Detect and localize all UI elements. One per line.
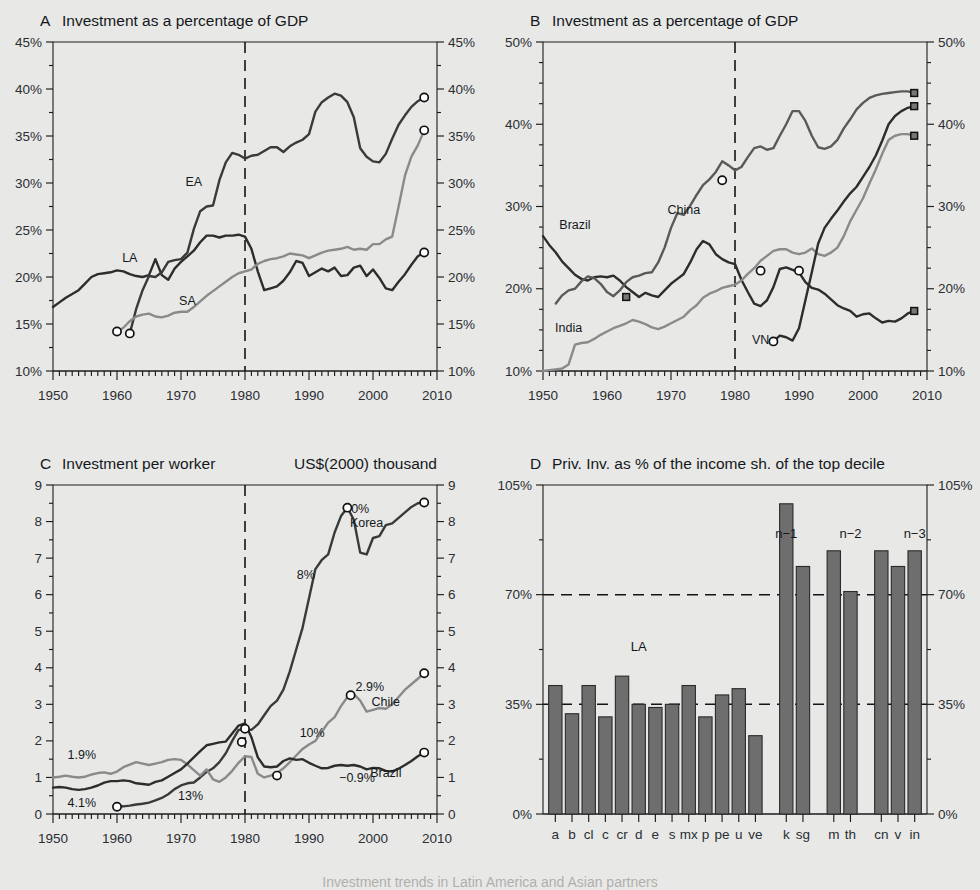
panel-letter-b: B — [530, 12, 540, 29]
y-tick-label-right: 5 — [448, 624, 456, 639]
y-tick-label-right: 10% — [938, 364, 965, 379]
bar-d — [632, 704, 645, 814]
y-tick-label-right: 30% — [938, 199, 965, 214]
bar-cl — [582, 686, 595, 814]
marker-point-ea — [126, 329, 134, 337]
y-tick-label-right: 15% — [448, 317, 475, 332]
panel-letter-c: C — [40, 455, 51, 472]
y-tick-label-left: 15% — [15, 317, 42, 332]
x-tick-label: 1950 — [528, 388, 558, 403]
y-tick-label-right: 1 — [448, 770, 456, 785]
annotation-13: 13% — [178, 789, 203, 803]
x-tick-label: 2010 — [912, 388, 942, 403]
chart-b: BInvestment as a percentage of GDP10%10%… — [490, 0, 980, 443]
x-tick-label: 1980 — [230, 831, 260, 846]
marker-point-chile — [347, 691, 355, 699]
x-tick-label: 1950 — [38, 831, 68, 846]
marker-square-brazil — [911, 308, 918, 315]
x-tick-label-u: u — [735, 827, 743, 842]
marker-point-korea — [241, 725, 249, 733]
x-tick-label: 1990 — [294, 831, 324, 846]
x-tick-label-s: s — [669, 827, 676, 842]
bar-e — [649, 707, 662, 814]
panel-title-c: Investment per worker — [62, 455, 215, 472]
chart-c: CInvestment per workerUS$(2000) thousand… — [0, 443, 490, 886]
x-tick-label-pe: pe — [715, 827, 730, 842]
series-line-sa — [117, 130, 424, 331]
y-tick-label-right: 10% — [448, 364, 475, 379]
y-tick-label-left: 45% — [15, 35, 42, 50]
marker-point-la — [420, 248, 428, 256]
chart-a: AInvestment as a percentage of GDP10%10%… — [0, 0, 490, 443]
marker-point-korea — [113, 803, 121, 811]
panel-c: CInvestment per workerUS$(2000) thousand… — [0, 443, 490, 886]
group-label-n1: n−1 — [775, 526, 797, 541]
series-line-vn — [773, 106, 914, 341]
y-tick-label-left: 20% — [505, 281, 532, 296]
chart-d: DPriv. Inv. as % of the income sh. of th… — [490, 443, 980, 886]
bar-mx — [682, 686, 695, 814]
y-tick-label-left: 4 — [34, 660, 42, 675]
x-tick-label: 1990 — [784, 388, 814, 403]
y-tick-label-left: 7 — [34, 551, 42, 566]
marker-point-korea — [420, 498, 428, 506]
x-tick-label: 2000 — [358, 831, 388, 846]
y-tick-label-right: 105% — [938, 478, 973, 493]
bar-v — [891, 566, 904, 814]
x-tick-label: 1990 — [294, 388, 324, 403]
y-tick-label-left: 5 — [34, 624, 42, 639]
x-tick-label-k: k — [783, 827, 790, 842]
series-line-india — [543, 134, 914, 371]
x-tick-label: 1960 — [102, 388, 132, 403]
panel-title-d: Priv. Inv. as % of the income sh. of the… — [552, 455, 885, 472]
bar-c — [599, 717, 612, 814]
marker-square-india — [911, 132, 918, 139]
annotation-2.9: 2.9% — [356, 680, 385, 694]
y-tick-label-right: 2 — [448, 733, 456, 748]
bar-th — [844, 592, 857, 814]
series-label-la: LA — [122, 251, 138, 265]
panel-d: DPriv. Inv. as % of the income sh. of th… — [490, 443, 980, 886]
bar-cn — [875, 551, 888, 814]
series-label-china: China — [667, 203, 700, 217]
x-tick-label-a: a — [552, 827, 560, 842]
x-tick-label-cl: cl — [584, 827, 594, 842]
y-tick-label-right: 20% — [938, 281, 965, 296]
y-tick-label-right: 25% — [448, 223, 475, 238]
bar-ve — [749, 736, 762, 814]
y-tick-label-left: 3 — [34, 697, 42, 712]
marker-square-brazil — [623, 294, 630, 301]
y-tick-label-right: 0% — [938, 807, 958, 822]
y-tick-label-left: 2 — [34, 733, 42, 748]
series-label-india: India — [555, 321, 582, 335]
annotation-8: 8% — [297, 568, 315, 582]
marker-square-vn — [911, 103, 918, 110]
x-tick-label: 1980 — [230, 388, 260, 403]
y-tick-label-left: 8 — [34, 514, 42, 529]
annotation-1.9: 1.9% — [68, 748, 97, 762]
marker-point-ea — [420, 93, 428, 101]
bar-s — [665, 704, 678, 814]
series-label-brazil: Brazil — [559, 218, 590, 232]
marker-square-china — [911, 90, 918, 97]
y-tick-label-left: 0 — [34, 807, 42, 822]
annotation-0: 0% — [351, 502, 369, 516]
bar-b — [565, 714, 578, 814]
y-tick-label-right: 6 — [448, 587, 456, 602]
series-label-sa: SA — [179, 294, 196, 308]
panel-title-right: US$(2000) thousand — [294, 455, 437, 472]
group-label-LA: LA — [631, 639, 647, 654]
x-tick-label: 1970 — [656, 388, 686, 403]
group-label-n3: n−3 — [904, 526, 926, 541]
y-tick-label-left: 40% — [15, 82, 42, 97]
y-tick-label-left: 40% — [505, 117, 532, 132]
x-tick-label-p: p — [702, 827, 710, 842]
x-tick-label-c: c — [602, 827, 609, 842]
series-label-brazil: Brazil — [370, 766, 401, 780]
series-label-vn: VN — [752, 333, 769, 347]
y-tick-label-right: 3 — [448, 697, 456, 712]
marker-point-brazil — [238, 738, 246, 746]
y-tick-label-left: 1 — [34, 770, 42, 785]
bar-u — [732, 689, 745, 814]
y-tick-label-right: 8 — [448, 514, 456, 529]
